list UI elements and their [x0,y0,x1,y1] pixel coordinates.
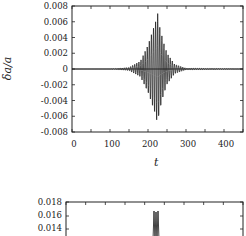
plot2-ytick: 0.016 [2,210,62,220]
plot1-ytick: 0.006 [8,17,68,27]
plot2-spike-series [153,211,159,236]
plot2-ytick: 0.018 [2,197,62,207]
plot1-ytick: -0.002 [8,80,68,90]
plot1-ytick: -0.004 [8,96,68,106]
plot1-ytick: 0.004 [8,33,68,43]
plot1-ytick: -0.008 [8,127,68,137]
plot1-xtick: 300 [173,139,203,149]
plot2-ytick: 0.014 [2,223,62,233]
plot1-xtick: 100 [97,139,127,149]
plot1-xtick: 200 [135,139,165,149]
plot1-ytick: 0 [8,64,68,74]
plot1-xtick: 0 [59,139,89,149]
plot1-ytick: -0.006 [8,111,68,121]
plot1-ytick: 0.002 [8,48,68,58]
plot1-ytick: 0.008 [8,1,68,11]
plot1-wave-series [72,14,243,120]
plot1-ylabel: δa/a [1,57,14,80]
plot1-xlabel: t [154,156,158,169]
plot1-xtick: 400 [211,139,241,149]
